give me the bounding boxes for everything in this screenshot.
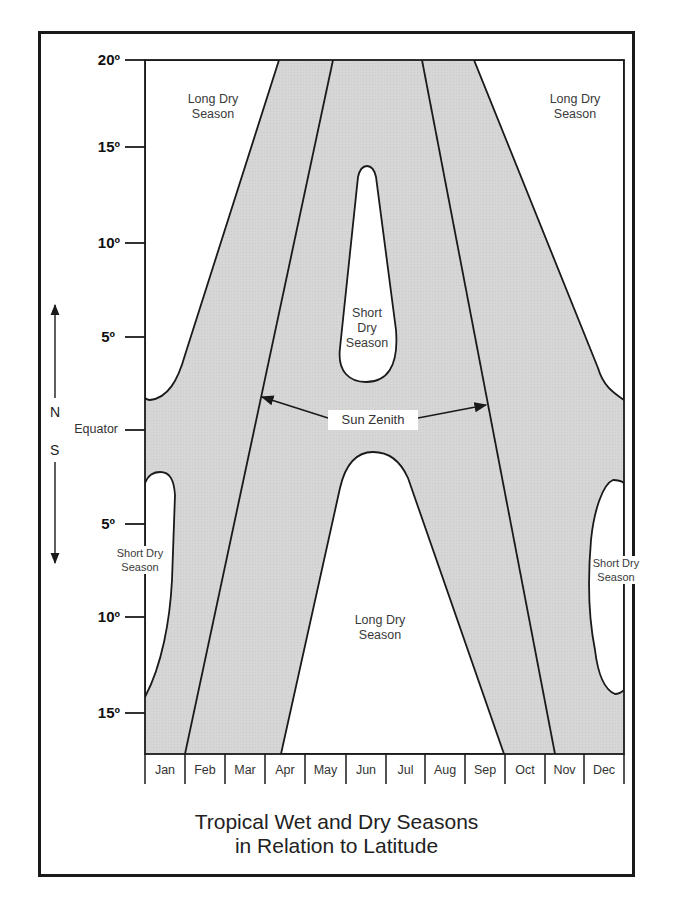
- outer-frame: [38, 31, 635, 877]
- short-dry-sw-label: Short Dry Season: [116, 546, 164, 574]
- short-dry-se-label: Short Dry Season: [592, 556, 640, 584]
- y-tick-label: 15º: [60, 138, 120, 155]
- month-label: Aug: [425, 756, 465, 784]
- y-tick-label: 15º: [60, 704, 120, 721]
- month-label: Jun: [346, 756, 386, 784]
- month-label: May: [305, 756, 346, 784]
- long-dry-nw-label: Long Dry Season: [168, 92, 258, 122]
- month-label: Oct: [505, 756, 545, 784]
- month-label: Dec: [584, 756, 624, 784]
- y-tick-label: 10º: [60, 608, 120, 625]
- south-label: S: [50, 442, 59, 458]
- month-label: Nov: [545, 756, 584, 784]
- sun-zenith-label: Sun Zenith: [328, 410, 418, 430]
- y-tick-label: 10º: [60, 234, 120, 251]
- short-dry-center-label: Short Dry Season: [343, 306, 391, 351]
- month-label: Mar: [225, 756, 265, 784]
- long-dry-ne-label: Long Dry Season: [540, 92, 610, 122]
- y-tick-label: 5º: [55, 515, 115, 532]
- y-tick-label: 20º: [60, 51, 120, 68]
- month-label: Apr: [265, 756, 305, 784]
- equator-label: Equator: [58, 422, 118, 436]
- month-label: Jan: [145, 756, 185, 784]
- y-tick-label: 5º: [55, 328, 115, 345]
- diagram-title-line-2: in Relation to Latitude: [38, 834, 635, 858]
- month-label: Jul: [386, 756, 425, 784]
- month-label: Sep: [465, 756, 505, 784]
- diagram-title-line-1: Tropical Wet and Dry Seasons: [38, 810, 635, 834]
- long-dry-south-label: Long Dry Season: [345, 613, 415, 643]
- month-label: Feb: [185, 756, 225, 784]
- north-label: N: [50, 404, 60, 420]
